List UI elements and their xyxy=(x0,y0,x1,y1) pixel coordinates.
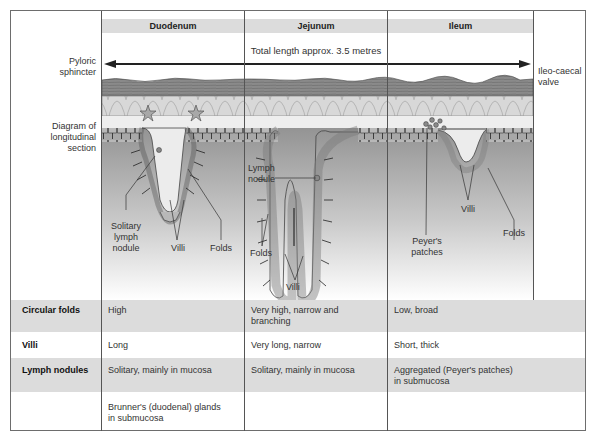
row-label-lymph-nodules: Lymph nodules xyxy=(22,365,88,376)
cell-circular-folds-jejunum: Very high, narrow and branching xyxy=(251,305,339,327)
cell-lymph-nodules-ileum: Aggregated (Peyer's patches) in submucos… xyxy=(394,365,513,387)
ileum-villi-label: Villi xyxy=(456,204,480,215)
table-row-brunners-glands xyxy=(11,392,585,430)
row-divider-duodenum-jejunum xyxy=(244,300,245,431)
row-divider-jejunum-ileum xyxy=(387,300,388,431)
ileo-caecal-valve-label: Ileo-caecal valve xyxy=(538,66,586,88)
cell-circular-folds-duodenum: High xyxy=(108,305,127,316)
column-divider-ileum-margin xyxy=(533,11,534,300)
duodenum-folds-label: Folds xyxy=(210,243,232,254)
row-label-villi: Villi xyxy=(22,340,38,351)
cell-brunners-glands-duodenum: Brunner's (duodenal) glands in submucosa xyxy=(108,402,221,424)
cell-villi-duodenum: Long xyxy=(108,340,128,351)
duodenum-villi-label: Villi xyxy=(166,243,190,254)
cell-lymph-nodules-jejunum: Solitary, mainly in mucosa xyxy=(251,365,355,376)
total-length-label: Total length approx. 3.5 metres xyxy=(245,45,387,56)
cell-lymph-nodules-duodenum: Solitary, mainly in mucosa xyxy=(108,365,212,376)
cell-circular-folds-ileum: Low, broad xyxy=(394,305,438,316)
jejunum-lymph-nodule-label: Lymph nodule xyxy=(248,163,275,185)
solitary-lymph-nodule-label: Solitary lymph nodule xyxy=(108,221,144,254)
ileum-folds-label: Folds xyxy=(503,228,525,239)
row-divider-label xyxy=(101,300,102,431)
row-label-circular-folds: Circular folds xyxy=(22,305,80,316)
jejunum-villi-label: Villi xyxy=(286,282,300,293)
longitudinal-section-label: Diagram of longitudinal section xyxy=(20,121,96,154)
jejunum-folds-label: Folds xyxy=(250,248,272,259)
cell-villi-ileum: Short, thick xyxy=(394,340,439,351)
peyers-patches-label: Peyer's patches xyxy=(410,236,444,258)
pyloric-sphincter-label: Pyloric sphincter xyxy=(20,56,96,78)
cell-villi-jejunum: Very long, narrow xyxy=(251,340,321,351)
